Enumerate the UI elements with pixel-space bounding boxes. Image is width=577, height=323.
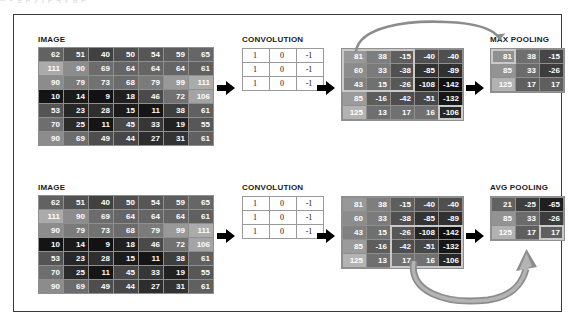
max-featuremap-cell-r2-c4: -142 xyxy=(439,78,462,91)
avg-image-cell-r2-c4: 79 xyxy=(139,224,163,237)
clipped-top-text: a e g p y j p q y g p xyxy=(0,0,577,11)
arrow-convolution-to-featuremap-max xyxy=(317,80,335,96)
max-pooled-cell-r0-c2: -15 xyxy=(540,50,563,63)
avg-kernel-cell-r2-c0: 1 xyxy=(243,225,270,239)
avg-image-cell-r1-c0: 111 xyxy=(39,210,63,223)
max-image-cell-r2-c4: 79 xyxy=(139,76,163,89)
max-featuremap-cell-r2-c1: 15 xyxy=(367,78,390,91)
avg-pooled-cell-r0-c2: -65 xyxy=(540,198,563,211)
avg-featuremap-cell-r2-c3: -108 xyxy=(415,226,438,239)
max-image-cell-r1-c6: 61 xyxy=(189,62,213,75)
avg-image-cell-r0-c4: 54 xyxy=(139,196,163,209)
max-featuremap-cell-r2-c0: 43 xyxy=(343,78,366,91)
avg-image-cell-r0-c6: 65 xyxy=(189,196,213,209)
avg-image-cell-r4-c6: 61 xyxy=(189,252,213,265)
avg-featuremap-cell-r1-c3: -85 xyxy=(415,212,438,225)
avg-image-cell-r2-c3: 68 xyxy=(114,224,138,237)
avg-image-cell-r1-c2: 69 xyxy=(89,210,113,223)
avg-image-cell-r0-c0: 62 xyxy=(39,196,63,209)
max-image-cell-r1-c4: 64 xyxy=(139,62,163,75)
avg-image-cell-r3-c6: 106 xyxy=(189,238,213,251)
max-kernel-row: 10-1 xyxy=(243,77,324,91)
max-image-cell-r6-c4: 27 xyxy=(139,132,163,145)
max-image-cell-r3-c5: 72 xyxy=(164,90,188,103)
avg-kernel-cell-r2-c1: 0 xyxy=(270,225,297,239)
convolution-label-avg: CONVOLUTION xyxy=(242,183,303,192)
avg-image-cell-r1-c3: 64 xyxy=(114,210,138,223)
avg-image-cell-r3-c0: 10 xyxy=(39,238,63,251)
avg-image-cell-r2-c5: 99 xyxy=(164,224,188,237)
max-image-cell-r5-c0: 70 xyxy=(39,118,63,131)
avg-image-cell-r5-c5: 19 xyxy=(164,266,188,279)
max-image-cell-r0-c5: 59 xyxy=(164,48,188,61)
avg-image-cell-r6-c5: 31 xyxy=(164,280,188,293)
avg-image-cell-r4-c4: 11 xyxy=(139,252,163,265)
max-image-cell-r4-c4: 11 xyxy=(139,104,163,117)
max-image-cell-r5-c6: 55 xyxy=(189,118,213,131)
avg-featuremap-cell-r4-c1: 13 xyxy=(367,254,390,267)
max-kernel-cell-r0-c2: -1 xyxy=(297,49,324,63)
image-matrix-avg: 6251405054596511190696464646190797368799… xyxy=(38,195,214,294)
max-featuremap-cell-r3-c2: -42 xyxy=(391,92,414,105)
avg-image-cell-r6-c4: 27 xyxy=(139,280,163,293)
max-image-cell-r1-c5: 64 xyxy=(164,62,188,75)
avg-image-cell-r3-c4: 46 xyxy=(139,238,163,251)
max-image-cell-r5-c5: 19 xyxy=(164,118,188,131)
max-image-cell-r5-c3: 45 xyxy=(114,118,138,131)
avg-image-cell-r4-c5: 38 xyxy=(164,252,188,265)
avg-pooled-cell-r2-c1: 17 xyxy=(516,226,539,239)
avg-featuremap-cell-r3-c2: -42 xyxy=(391,240,414,253)
max-image-cell-r0-c4: 54 xyxy=(139,48,163,61)
arrow-featuremap-to-pooling-max xyxy=(466,80,484,96)
max-image-cell-r2-c6: 111 xyxy=(189,76,213,89)
avg-image-cell-r4-c0: 53 xyxy=(39,252,63,265)
max-image-cell-r6-c6: 61 xyxy=(189,132,213,145)
avg-featuremap-cell-r0-c2: -15 xyxy=(391,198,414,211)
avg-image-cell-r5-c2: 11 xyxy=(89,266,113,279)
max-featuremap-cell-r2-c3: -108 xyxy=(415,78,438,91)
max-featuremap-cell-r1-c4: -89 xyxy=(439,64,462,77)
max-image-cell-r6-c2: 49 xyxy=(89,132,113,145)
max-pooled-cell-r0-c0: 81 xyxy=(492,50,515,63)
avg-image-cell-r4-c1: 23 xyxy=(64,252,88,265)
max-kernel-cell-r0-c0: 1 xyxy=(243,49,270,63)
avg-kernel-row: 10-1 xyxy=(243,211,324,225)
max-image-cell-r3-c3: 18 xyxy=(114,90,138,103)
avg-pooled-cell-r2-c2: 17 xyxy=(540,226,563,239)
max-image-cell-r0-c3: 50 xyxy=(114,48,138,61)
max-featuremap-cell-r4-c0: 125 xyxy=(343,106,366,119)
max-image-cell-r6-c0: 90 xyxy=(39,132,63,145)
max-kernel-row: 10-1 xyxy=(243,63,324,77)
avg-image-cell-r6-c6: 61 xyxy=(189,280,213,293)
max-kernel-cell-r0-c1: 0 xyxy=(270,49,297,63)
avg-kernel-cell-r0-c1: 0 xyxy=(270,197,297,211)
max-image-cell-r6-c5: 31 xyxy=(164,132,188,145)
max-image-cell-r2-c5: 99 xyxy=(164,76,188,89)
max-featuremap-cell-r1-c1: 33 xyxy=(367,64,390,77)
max-image-cell-r6-c1: 69 xyxy=(64,132,88,145)
max-image-cell-r4-c5: 38 xyxy=(164,104,188,117)
max-pooled-cell-r2-c0: 125 xyxy=(492,78,515,91)
max-image-cell-r4-c0: 53 xyxy=(39,104,63,117)
max-featuremap-cell-r0-c0: 81 xyxy=(343,50,366,63)
avg-pooled-cell-r1-c0: 85 xyxy=(492,212,515,225)
avg-featuremap-cell-r0-c1: 38 xyxy=(367,198,390,211)
avg-pooled-cell-r0-c0: 21 xyxy=(492,198,515,211)
max-image-cell-r5-c2: 11 xyxy=(89,118,113,131)
arrow-image-to-convolution-max xyxy=(217,80,235,96)
avg-featuremap-cell-r3-c0: 85 xyxy=(343,240,366,253)
avg-image-cell-r2-c6: 111 xyxy=(189,224,213,237)
max-featuremap-cell-r1-c3: -85 xyxy=(415,64,438,77)
max-kernel-cell-r1-c2: -1 xyxy=(297,63,324,77)
avg-featuremap-cell-r2-c2: -26 xyxy=(391,226,414,239)
max-image-cell-r4-c1: 23 xyxy=(64,104,88,117)
avg-featuremap-cell-r3-c1: -16 xyxy=(367,240,390,253)
max-kernel-cell-r1-c0: 1 xyxy=(243,63,270,77)
avg-image-cell-r1-c4: 64 xyxy=(139,210,163,223)
max-featuremap-cell-r4-c3: 16 xyxy=(415,106,438,119)
max-image-cell-r2-c1: 79 xyxy=(64,76,88,89)
max-featuremap-cell-r4-c4: -106 xyxy=(439,106,462,119)
max-image-cell-r0-c2: 40 xyxy=(89,48,113,61)
convolution-kernel-max: 10-110-110-1 xyxy=(242,48,324,91)
image-label-max: IMAGE xyxy=(38,35,65,44)
